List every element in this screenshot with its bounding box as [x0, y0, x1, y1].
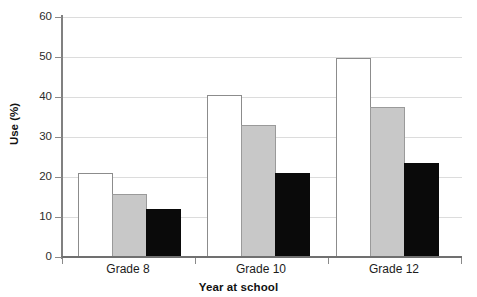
y-axis-title: Use (%)	[8, 84, 20, 164]
y-tick-20	[55, 177, 62, 178]
y-tick-label-20: 20	[22, 171, 52, 183]
y-tick-label-30: 30	[22, 131, 52, 143]
y-tick-40	[55, 97, 62, 98]
bar-grade12-white	[336, 58, 371, 257]
bar-grade12-grey	[370, 107, 405, 257]
y-tick-label-10: 10	[22, 211, 52, 223]
x-label-grade-8: Grade 8	[88, 263, 168, 276]
y-tick-50	[55, 57, 62, 58]
bar-grade12-black	[404, 163, 439, 257]
bar-grade8-white	[78, 173, 113, 257]
y-tick-30	[55, 137, 62, 138]
bar-chart: 60 50 40 30 20 10 0 Grade 8 Grade 10 Gra…	[0, 0, 477, 297]
y-tick-label-50: 50	[22, 51, 52, 63]
bar-grade8-black	[146, 209, 181, 257]
y-tick-10	[55, 217, 62, 218]
plot-area	[62, 17, 462, 257]
x-label-grade-12: Grade 12	[354, 263, 434, 276]
x-tick-left	[62, 258, 63, 264]
x-axis-title: Year at school	[0, 281, 477, 293]
gridline-40	[62, 97, 462, 98]
bar-grade8-grey	[112, 194, 147, 257]
x-axis-line	[61, 256, 462, 258]
x-tick-right	[461, 258, 462, 264]
x-label-grade-10: Grade 10	[221, 263, 301, 276]
y-tick-label-60: 60	[22, 11, 52, 23]
gridline-60	[62, 17, 462, 18]
bar-grade10-white	[207, 95, 242, 257]
bar-grade10-black	[275, 173, 310, 257]
x-tick-1	[195, 258, 196, 264]
x-tick-2	[328, 258, 329, 264]
gridline-50	[62, 57, 462, 58]
y-tick-0	[55, 257, 62, 258]
y-tick-label-40: 40	[22, 91, 52, 103]
bar-grade10-grey	[241, 125, 276, 257]
y-tick-60	[55, 17, 62, 18]
y-tick-label-0: 0	[22, 251, 52, 263]
